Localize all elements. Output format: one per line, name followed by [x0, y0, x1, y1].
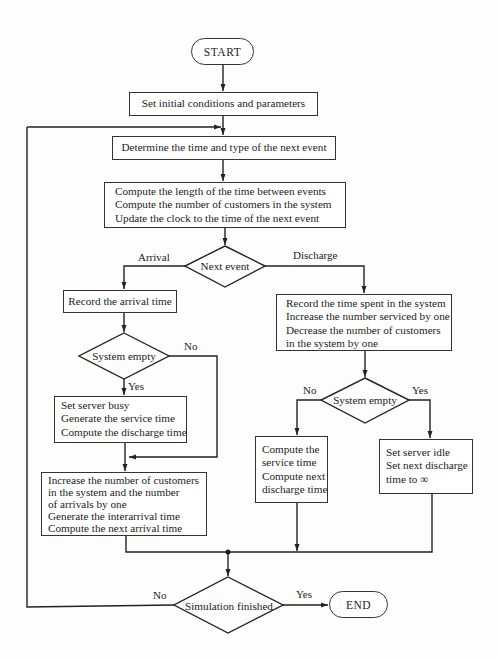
- discharge-line-4: in the system by one: [286, 337, 445, 350]
- idle-line-2: Set next discharge: [386, 459, 466, 472]
- idle-line-1: Set server idle: [386, 446, 466, 459]
- start-label: START: [204, 46, 241, 58]
- simulation-finished-decision: Simulation finished: [185, 600, 273, 612]
- next-event-decision: Next event: [201, 260, 250, 272]
- compute-line-1: Compute the length of the time between e…: [115, 185, 339, 198]
- start-terminal: START: [191, 38, 254, 65]
- discharge-system-empty-decision: System empty: [333, 394, 397, 406]
- init-text: Set initial conditions and parameters: [142, 97, 305, 110]
- service-line-1: Compute the: [262, 443, 321, 456]
- determine-event-box: Determine the time and type of the next …: [112, 136, 336, 160]
- discharge-branch-label: Discharge: [293, 249, 337, 261]
- discharge-line-2: Increase the number serviced by one: [286, 310, 445, 323]
- server-idle-box: Set server idle Set next discharge time …: [379, 439, 473, 494]
- discharge-yes-label: Yes: [412, 384, 428, 396]
- service-line-4: discharge time: [262, 483, 321, 496]
- arrival-branch-label: Arrival: [138, 251, 170, 263]
- busy-line-3: Compute the discharge time: [61, 426, 180, 439]
- increase-line-4: Generate the interarrival time: [48, 510, 200, 522]
- busy-line-1: Set server busy: [61, 399, 180, 412]
- discharge-no-label: No: [303, 384, 316, 396]
- compute-service-box: Compute the service time Compute next di…: [255, 436, 328, 503]
- increase-customers-box: Increase the number of customers in the …: [41, 472, 207, 536]
- service-line-2: service time: [262, 456, 321, 469]
- busy-line-2: Generate the service time: [61, 412, 180, 425]
- compute-line-2: Compute the number of customers in the s…: [115, 198, 339, 211]
- determine-text: Determine the time and type of the next …: [121, 141, 326, 154]
- increase-line-5: Compute the next arrival time: [48, 522, 200, 534]
- arrival-no-label: No: [184, 340, 197, 352]
- flowchart-canvas: START END Set initial conditions and par…: [0, 0, 498, 659]
- idle-line-3: time to ∞: [386, 473, 466, 486]
- increase-line-1: Increase the number of customers: [48, 474, 200, 486]
- record-arrival-box: Record the arrival time: [63, 290, 177, 313]
- end-terminal: END: [329, 591, 388, 618]
- compute-line-3: Update the clock to the time of the next…: [115, 212, 339, 225]
- server-busy-box: Set server busy Generate the service tim…: [54, 396, 187, 443]
- discharge-line-3: Decrease the number of customers: [286, 324, 445, 337]
- record-discharge-box: Record the time spent in the system Incr…: [276, 294, 452, 351]
- increase-line-3: of arrivals by one: [48, 498, 200, 510]
- init-box: Set initial conditions and parameters: [129, 92, 318, 116]
- compute-box: Compute the length of the time between e…: [104, 182, 346, 228]
- end-label: END: [346, 599, 371, 611]
- service-line-3: Compute next: [262, 470, 321, 483]
- arrival-system-empty-decision: System empty: [92, 350, 156, 362]
- record-arrival-text: Record the arrival time: [68, 295, 171, 308]
- arrival-yes-label: Yes: [128, 380, 144, 392]
- finish-no-label: No: [153, 589, 166, 601]
- increase-line-2: in the system and the number: [48, 486, 200, 498]
- finish-yes-label: Yes: [296, 588, 312, 600]
- discharge-line-1: Record the time spent in the system: [286, 297, 445, 310]
